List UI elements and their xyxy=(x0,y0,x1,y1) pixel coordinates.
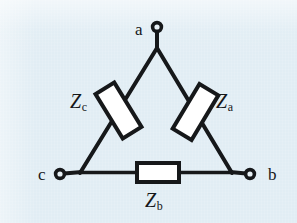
terminal-a-icon xyxy=(153,23,162,32)
component-label-Zc: Zc xyxy=(70,91,87,113)
component-Zb xyxy=(137,163,179,182)
component-label-Za: Za xyxy=(216,91,233,113)
component-label-Za-symbol: Z xyxy=(216,90,227,112)
node-label-a: a xyxy=(135,21,143,38)
component-label-Zb-subscript: b xyxy=(157,199,163,213)
component-Zc xyxy=(96,83,142,139)
component-label-Zc-symbol: Z xyxy=(70,90,81,112)
circuit-figure: a b c Za Zb Zc xyxy=(0,0,297,223)
component-label-Zb: Zb xyxy=(145,190,163,212)
node-label-b: b xyxy=(268,166,277,183)
terminal-b-icon xyxy=(246,170,255,179)
component-Za xyxy=(173,84,219,140)
component-label-Za-subscript: a xyxy=(228,100,233,114)
terminal-c-icon xyxy=(56,170,65,179)
component-label-Zb-symbol: Z xyxy=(145,189,156,211)
node-label-c: c xyxy=(38,166,46,183)
component-label-Zc-subscript: c xyxy=(82,100,87,114)
